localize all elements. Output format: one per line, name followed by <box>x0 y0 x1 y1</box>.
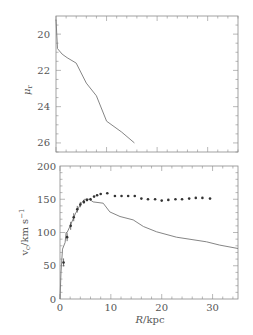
data-point <box>62 261 65 264</box>
data-point <box>106 192 109 195</box>
top-y-axis-label: μr <box>21 84 34 95</box>
data-point <box>86 199 89 202</box>
top-y-tick-label: 26 <box>37 137 50 148</box>
data-point <box>79 203 82 206</box>
data-point <box>120 195 123 198</box>
bottom-x-tick-label: 0 <box>57 302 63 313</box>
figure: 20222426 μr 0102030050100150200 vc/km s−… <box>0 0 253 335</box>
top-panel: 20222426 μr <box>21 16 238 152</box>
data-point <box>72 216 75 219</box>
data-point <box>174 198 177 201</box>
bottom-y-tick-label: 50 <box>43 260 56 271</box>
data-point <box>147 198 150 201</box>
data-point <box>69 225 72 228</box>
data-point <box>96 194 99 197</box>
observed-points <box>62 192 211 266</box>
bottom-plot-frame <box>60 166 238 299</box>
bottom-y-axis-label: vc/km s−1 <box>18 208 32 256</box>
bottom-y-tick-label: 0 <box>50 294 56 305</box>
data-point <box>133 195 136 198</box>
data-point <box>140 197 143 200</box>
data-point <box>114 195 117 198</box>
bottom-x-tick-label: 20 <box>155 302 168 313</box>
data-point <box>167 199 170 202</box>
top-y-tick-label: 20 <box>37 29 50 40</box>
bottom-x-axis-label: R/kpc <box>135 314 165 325</box>
data-point <box>83 201 86 204</box>
bottom-y-tick-label: 200 <box>37 161 56 172</box>
top-plot-frame <box>56 16 238 152</box>
data-point <box>93 195 96 198</box>
data-point <box>66 236 69 239</box>
bottom-y-tick-label: 150 <box>37 194 56 205</box>
bottom-x-tick-label: 10 <box>104 302 117 313</box>
data-point <box>209 197 212 200</box>
surface-brightness-curve <box>56 20 134 143</box>
data-point <box>76 208 79 211</box>
data-point <box>160 199 163 202</box>
top-y-tick-label: 24 <box>37 101 50 112</box>
bottom-y-tick-label: 100 <box>37 227 56 238</box>
bottom-tick-labels: 0102030050100150200 <box>37 161 219 314</box>
model-rotation-curve <box>60 199 238 299</box>
data-point <box>89 198 92 201</box>
top-ticks <box>56 16 238 152</box>
data-point <box>99 193 102 196</box>
data-point <box>181 198 184 201</box>
data-point <box>194 197 197 200</box>
data-point <box>154 198 157 201</box>
data-point <box>201 197 204 200</box>
bottom-panel: 0102030050100150200 vc/km s−1 R/kpc <box>18 161 238 326</box>
bottom-ticks <box>60 166 238 299</box>
data-point <box>188 197 191 200</box>
bottom-x-tick-label: 30 <box>206 302 219 313</box>
top-y-tick-label: 22 <box>37 65 50 76</box>
top-tick-labels: 20222426 <box>37 29 50 149</box>
data-point <box>127 195 130 198</box>
